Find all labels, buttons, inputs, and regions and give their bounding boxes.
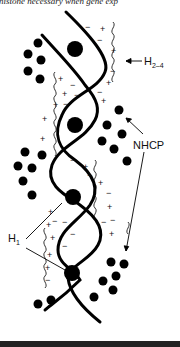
plus-sign: + (40, 134, 45, 144)
histone-core (67, 117, 83, 133)
nhcp-dot (14, 162, 23, 171)
minus-sign: − (97, 35, 102, 45)
nhcp-dot (118, 130, 127, 139)
label-h1: H1 (8, 232, 20, 246)
plus-sign: + (58, 74, 63, 84)
nhcp-dot (112, 272, 121, 281)
minus-sign: − (106, 188, 111, 198)
plus-sign: + (46, 220, 51, 230)
plus-sign: + (111, 46, 116, 56)
nhcp-dot (90, 293, 99, 302)
minus-sign: − (101, 217, 106, 227)
plus-sign: + (62, 89, 67, 99)
h24-tail-low-right (127, 222, 129, 234)
nhcp-dot (24, 50, 33, 59)
nhcp-dot (110, 145, 119, 154)
minus-sign: − (74, 90, 79, 100)
nhcp-dot (98, 137, 107, 146)
labels: H2–4 NHCP H1 (8, 55, 164, 246)
plus-sign: + (53, 100, 58, 110)
plus-sign: + (47, 250, 52, 260)
nhcp-dot (34, 39, 43, 48)
h24-arrowhead (126, 59, 131, 64)
histone-core (65, 189, 81, 205)
nhcp-dot (37, 56, 46, 65)
nhcp-dot (38, 151, 47, 160)
nhcp-dot (107, 258, 116, 267)
nhcp-dot (21, 148, 30, 157)
minus-sign: − (62, 241, 67, 251)
plus-sign: + (45, 263, 50, 273)
nhcp-dot (99, 277, 108, 286)
plus-sign: + (109, 229, 114, 239)
nhcp-arrowhead-down (124, 246, 129, 251)
nhcp-dot (109, 286, 118, 295)
plus-sign: + (42, 114, 47, 124)
histone-core (64, 265, 80, 281)
h24-tail-left (54, 72, 56, 156)
minus-sign: − (70, 229, 75, 239)
nhcp-dot (36, 75, 45, 84)
nhcp-dot (115, 106, 124, 115)
minus-sign: − (85, 22, 90, 32)
minus-sign: − (110, 66, 115, 76)
nhcp-dot (19, 177, 28, 186)
plus-sign: + (106, 78, 111, 88)
nhcp-dot (103, 121, 112, 130)
plus-sign: + (101, 96, 106, 106)
plus-sign: + (98, 178, 103, 188)
nhcp-dot (28, 191, 37, 200)
page-divider (0, 341, 180, 347)
minus-sign: − (62, 217, 67, 227)
plus-sign: + (107, 202, 112, 212)
nhcp-dot (28, 164, 37, 173)
nhcp-dot (123, 157, 132, 166)
histone-core (67, 41, 83, 57)
label-h24: H2–4 (144, 55, 164, 69)
minus-sign: − (52, 216, 57, 226)
minus-sign: − (70, 155, 75, 165)
minus-sign: − (110, 215, 115, 225)
nhcp-dot (24, 67, 33, 76)
minus-sign: − (45, 275, 50, 285)
nhcp-arrow-down (126, 152, 144, 251)
chromatin-diagram: − + − + − + − + + − + − + − + + − + − + … (0, 0, 180, 347)
minus-sign: − (63, 99, 68, 109)
nhcp-dot (120, 260, 129, 269)
plus-sign: + (50, 233, 55, 243)
nhcp-dot (47, 296, 56, 305)
plus-sign: + (100, 24, 105, 34)
minus-sign: − (87, 170, 92, 180)
minus-sign: − (70, 80, 75, 90)
label-nhcp: NHCP (133, 139, 164, 151)
nhcp-dot (34, 300, 43, 309)
